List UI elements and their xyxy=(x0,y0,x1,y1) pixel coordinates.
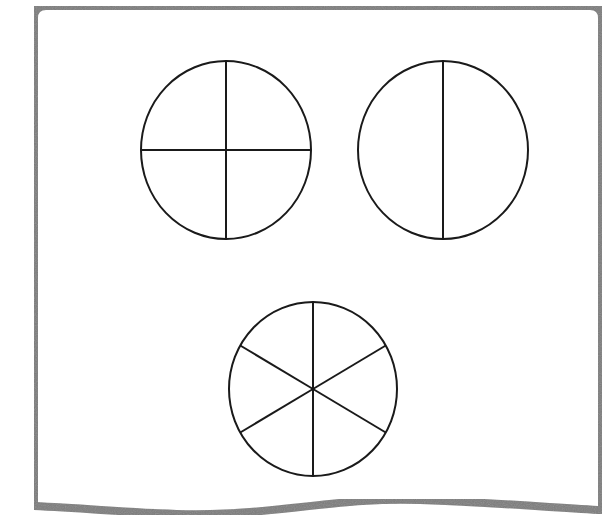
diagram-canvas: Circle divided into 4 equal parts Circle… xyxy=(0,0,616,515)
paper-torn-bottom-edge xyxy=(34,500,602,514)
paper-frame-border xyxy=(34,6,602,510)
circle-divided-into-2-parts: Circle divided into 2 equal parts xyxy=(358,61,528,239)
circle-division-line xyxy=(240,389,313,433)
circle-division-line xyxy=(313,389,386,433)
circle-division-line xyxy=(240,346,313,390)
circle-division-line xyxy=(313,346,386,390)
circle-divided-into-4-parts: Circle divided into 4 equal parts xyxy=(141,61,311,239)
fraction-diagram: Fraction circles divided into equal part… xyxy=(0,0,616,515)
circle-divided-into-6-parts: Circle divided into 6 equal parts xyxy=(229,302,397,476)
